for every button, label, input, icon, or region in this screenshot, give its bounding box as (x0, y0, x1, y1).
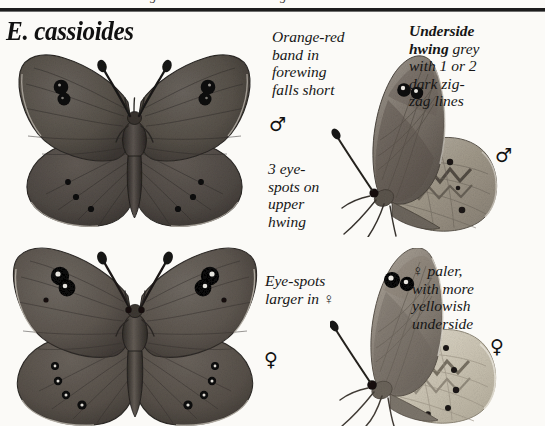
antenna (336, 330, 370, 382)
forewing-left (13, 248, 130, 357)
figure-male-upperside (12, 42, 257, 234)
antenna (338, 138, 372, 190)
annotation-three-eye-spots: 3 eye- spots on upper hwing (268, 160, 319, 230)
field-guide-plate: guide guide E. cassioides (0, 0, 545, 426)
thorax (123, 314, 148, 354)
female-symbol-upperside: ♀ (264, 350, 278, 369)
male-symbol-upperside: ♂ (269, 115, 286, 134)
abdomen (127, 351, 142, 417)
annotation-eye-spots-larger: Eye-spots larger in ♀ (265, 272, 335, 307)
female-symbol-underside: ♀ (490, 337, 504, 356)
figure-female-upperside (10, 238, 260, 426)
annotation-female-paler: ♀ paler, with more yellowish underside (412, 262, 544, 332)
forewing-right (139, 248, 256, 357)
annotation-orange-red-band: Orange-red band in forewing falls short (272, 28, 345, 98)
antenna-club-left (96, 58, 109, 73)
clipped-header-text: guide guide (0, 0, 545, 8)
antenna-club (330, 319, 341, 333)
antenna-club-left (95, 250, 108, 265)
eye-right (138, 307, 144, 313)
forewing-left (19, 55, 131, 161)
antenna-club (330, 127, 343, 141)
header-rule (0, 8, 545, 11)
eye-left (125, 307, 131, 313)
forewing-right (138, 55, 250, 161)
male-symbol-underside: ♂ (495, 146, 512, 165)
clipped-header-fragment: guide (150, 0, 179, 4)
antenna-club-right (161, 250, 174, 265)
antenna-club-right (161, 58, 174, 73)
clipped-header-fragment-2: guide (280, 0, 309, 4)
annotation-underside-hwing: Underside hwing grey with 1 or 2 dark zi… (409, 22, 544, 110)
